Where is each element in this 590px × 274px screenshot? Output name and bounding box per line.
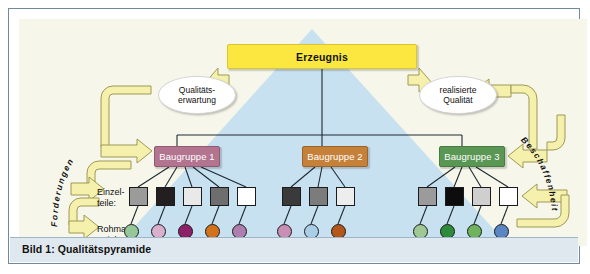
figure-frame: Erzeugnis Baugruppe 1 Baugruppe 2 Baugru…	[8, 8, 580, 264]
part-square-group2-3	[336, 187, 355, 206]
arrow-condition-pipe-bottom	[517, 195, 569, 227]
row-label-parts: Einzel- teile:	[97, 187, 125, 208]
illustration-area: Erzeugnis Baugruppe 1 Baugruppe 2 Baugru…	[19, 19, 587, 246]
part-square-group1-2	[156, 187, 175, 206]
figure-root: Erzeugnis Baugruppe 1 Baugruppe 2 Baugru…	[0, 0, 590, 274]
assembly-box-1[interactable]: Baugruppe 1	[154, 146, 220, 167]
product-label: Erzeugnis	[296, 51, 348, 63]
part-square-group3-4	[499, 187, 518, 206]
svg-text:Beschaffenheit: Beschaffenheit	[519, 135, 560, 213]
product-box[interactable]: Erzeugnis	[227, 44, 417, 69]
callout-realised-quality: realisierte Qualität	[419, 76, 497, 114]
assembly-label-2: Baugruppe 2	[307, 151, 363, 162]
arrow-requirements-head-1	[101, 139, 152, 163]
arrow-condition-to-parts3	[522, 184, 567, 208]
assembly-label-1: Baugruppe 1	[159, 151, 215, 162]
arrow-requirements-pipe-mid	[87, 161, 131, 189]
arrow-requirements-pipe-top	[101, 86, 151, 147]
figure-caption: Bild 1: Qualitätspyramide	[22, 243, 151, 255]
part-square-group1-4	[210, 187, 229, 206]
callout-quality-expectation: Qualitäts- erwartung	[158, 76, 236, 114]
part-square-group2-1	[282, 187, 301, 206]
callout-realised-label: realisierte Qualität	[440, 85, 477, 105]
arc-text-requirements: Forderungen	[49, 156, 76, 227]
assembly-box-3[interactable]: Baugruppe 3	[439, 146, 505, 167]
svg-text:Forderungen: Forderungen	[49, 156, 76, 227]
part-square-group1-3	[183, 187, 202, 206]
arrow-condition-pipe-top	[511, 85, 537, 149]
assembly-box-2[interactable]: Baugruppe 2	[302, 146, 368, 167]
callout-expectation-label: Qualitäts- erwartung	[178, 85, 216, 105]
arrow-condition-to-assembly3	[508, 144, 547, 168]
arrow-requirements-pipe-low	[69, 198, 99, 225]
part-square-group3-3	[472, 187, 491, 206]
part-square-group1-1	[129, 187, 148, 206]
caption-bar: Bild 1: Qualitätspyramide	[10, 237, 578, 262]
assembly-label-3: Baugruppe 3	[444, 151, 500, 162]
part-square-group3-2	[445, 187, 464, 206]
part-square-group3-1	[418, 187, 437, 206]
part-square-group1-5	[237, 187, 256, 206]
arrow-requirements-head-3	[69, 215, 99, 239]
arrow-condition-pipe-mid	[547, 115, 565, 150]
arc-text-condition: Beschaffenheit	[519, 135, 560, 213]
part-square-group2-2	[309, 187, 328, 206]
